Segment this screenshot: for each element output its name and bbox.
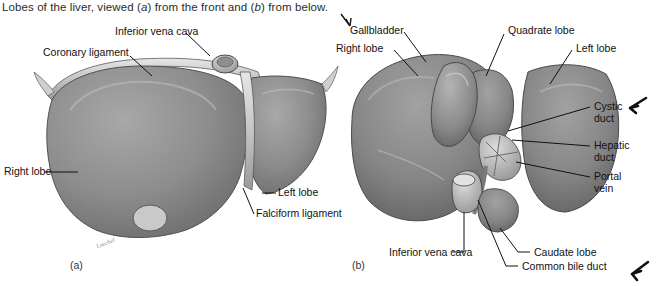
common-bile-duct-arrow-icon (632, 262, 648, 280)
caudate-lobe-shape (478, 189, 518, 232)
leader-quadrate-lobe-b (486, 34, 504, 76)
ivc-lumen (217, 57, 233, 67)
left-lobe-lateral-tip (322, 66, 338, 92)
ivc-lumen-inferior (453, 174, 475, 186)
label-cystic-duct-line1: Cystic (594, 100, 623, 112)
label-caudate-lobe-b: Caudate lobe (534, 247, 596, 259)
label-right-lobe-b: Right lobe (336, 43, 383, 55)
figure-canvas: Lobes of the liver, viewed (a) from the … (0, 0, 660, 286)
gallbladder-fundus-anterior (133, 205, 167, 231)
label-hepatic-duct-line2: duct (594, 151, 614, 163)
label-hepatic-duct-line1: Hepatic (594, 139, 630, 151)
label-portal-vein-b: Portal vein (594, 171, 642, 194)
label-portal-vein-line1: Portal (594, 170, 621, 182)
right-lobe-superior-tip (34, 72, 54, 96)
label-quadrate-lobe-b: Quadrate lobe (508, 25, 575, 37)
label-falciform-ligament-a: Falciform ligament (256, 208, 342, 220)
leader-falciform-ligament-a (243, 188, 254, 214)
label-portal-vein-line2: vein (594, 182, 613, 194)
label-cystic-duct-b: Cystic duct (594, 101, 642, 124)
label-inferior-vena-cava-b: Inferior vena cava (389, 247, 472, 259)
label-right-lobe-a: Right lobe (4, 166, 51, 178)
label-common-bile-duct-b: Common bile duct (522, 261, 607, 273)
label-hepatic-duct-b: Hepatic duct (594, 140, 642, 163)
label-gallbladder-b: Gallbladder (350, 25, 404, 37)
label-left-lobe-b: Left lobe (576, 43, 616, 55)
panel-label-a: (a) (70, 259, 83, 271)
label-cystic-duct-line2: duct (594, 112, 614, 124)
label-coronary-ligament-a: Coronary ligament (43, 47, 129, 59)
label-left-lobe-a: Left lobe (278, 187, 318, 199)
leader-caudate-lobe-b (500, 228, 530, 252)
panel-label-b: (b) (352, 259, 365, 271)
label-inferior-vena-cava-a: Inferior vena cava (115, 26, 198, 38)
